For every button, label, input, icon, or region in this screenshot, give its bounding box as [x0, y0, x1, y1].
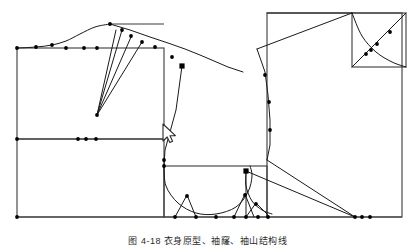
pattern-drawing-canvas[interactable] [0, 0, 416, 250]
control-point-dot[interactable] [388, 30, 392, 34]
canvas-background [0, 0, 416, 250]
control-point-dot[interactable] [162, 164, 166, 168]
control-point-dot[interactable] [232, 215, 236, 219]
control-point-dot[interactable] [267, 100, 271, 104]
control-point-dot[interactable] [82, 46, 86, 50]
figure-root: 图 4-18 衣身原型、袖窿、袖山结构线 [0, 0, 416, 250]
control-point-dot[interactable] [244, 215, 248, 219]
control-point-dot[interactable] [95, 46, 99, 50]
control-point-dot[interactable] [268, 128, 272, 132]
control-point-dot[interactable] [214, 215, 218, 219]
control-point-dot[interactable] [129, 34, 133, 38]
control-point-dot[interactable] [360, 215, 364, 219]
control-point-dot[interactable] [108, 22, 112, 26]
control-point-dot[interactable] [76, 137, 80, 141]
control-point-dot[interactable] [120, 28, 124, 32]
control-point-dot[interactable] [368, 215, 372, 219]
control-point-dot[interactable] [266, 215, 270, 219]
control-point-dot[interactable] [153, 45, 157, 49]
control-point-dot[interactable] [194, 215, 198, 219]
control-point-dot[interactable] [256, 215, 260, 219]
control-point-dot[interactable] [50, 43, 54, 47]
control-point-dot[interactable] [353, 215, 357, 219]
control-point-dot[interactable] [15, 137, 19, 141]
control-point-dot[interactable] [15, 46, 19, 50]
control-point-dot[interactable] [84, 137, 88, 141]
control-point-dot[interactable] [364, 52, 368, 56]
control-point-dot[interactable] [375, 42, 379, 46]
control-point-square[interactable] [243, 168, 248, 173]
control-point-dot[interactable] [34, 45, 38, 49]
control-point-dot[interactable] [140, 40, 144, 44]
control-point-square[interactable] [179, 63, 184, 68]
control-point-dot[interactable] [173, 215, 177, 219]
control-point-dot[interactable] [15, 215, 19, 219]
control-point-dot[interactable] [170, 55, 174, 59]
control-point-dot[interactable] [243, 193, 247, 197]
control-point-dot[interactable] [94, 137, 98, 141]
control-point-dot[interactable] [185, 194, 189, 198]
control-point-dot[interactable] [162, 158, 166, 162]
control-point-dot[interactable] [263, 73, 267, 77]
control-point-dot[interactable] [369, 48, 373, 52]
figure-caption: 图 4-18 衣身原型、袖窿、袖山结构线 [0, 236, 416, 250]
control-point-dot[interactable] [95, 113, 99, 117]
control-point-dot[interactable] [254, 202, 258, 206]
control-point-dot[interactable] [64, 46, 68, 50]
